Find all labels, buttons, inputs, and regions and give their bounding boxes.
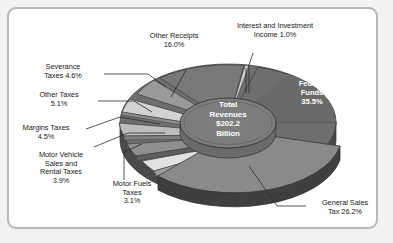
label-interest-investment: Interest and Investment Income 1.0%	[212, 22, 338, 39]
center-hub-text: Total Revenues $202.2 Billion	[190, 100, 266, 138]
label-severance-taxes: Severance Taxes 4.6%	[24, 63, 102, 80]
pie-chart-figure: Other Receipts 16.0% Interest and Invest…	[0, 0, 393, 243]
label-other-taxes: Other Taxes 5.1%	[20, 91, 98, 108]
leader-margins	[86, 117, 120, 129]
label-margins-taxes: Margins Taxes 4.5%	[6, 124, 86, 141]
label-other-receipts: Other Receipts 16.0%	[128, 32, 220, 49]
label-federal-funds: Federal Funds 35.5%	[284, 79, 340, 107]
label-motor-fuels-taxes: Motor Fuels Taxes 3.1%	[103, 180, 161, 206]
label-motor-vehicle-taxes: Motor Vehicle Sales and Rental Taxes 3.9…	[26, 151, 96, 185]
label-general-sales-tax: General Sales Tax 26.2%	[306, 199, 384, 216]
